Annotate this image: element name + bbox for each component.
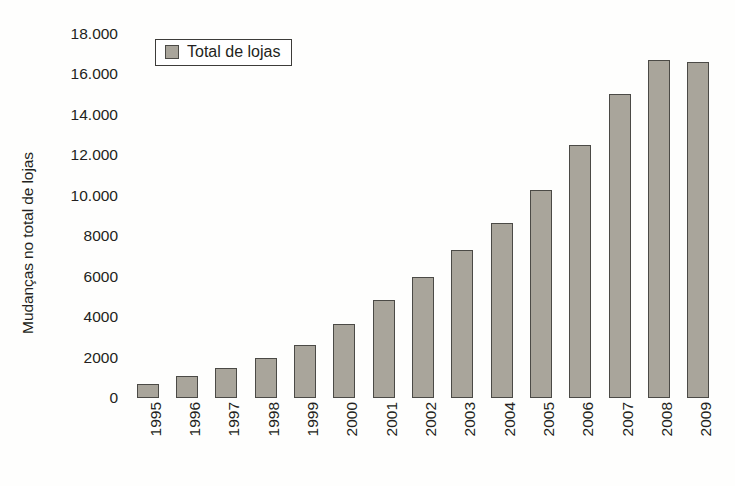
y-tick-label: 18.000 (56, 26, 118, 42)
bar-chart: Mudanças no total de lojas 0200040006000… (0, 0, 735, 486)
bar-slot (285, 34, 324, 398)
y-tick-label: 10.000 (56, 188, 118, 204)
bar (609, 94, 631, 398)
bar (176, 376, 198, 398)
x-tick-slot: 2002 (403, 398, 442, 480)
y-axis-tick-labels: 0200040006000800010.00012.00014.00016.00… (56, 34, 118, 398)
chart-legend: Total de lojas (155, 39, 292, 66)
bar-slot (207, 34, 246, 398)
legend-label: Total de lojas (187, 44, 280, 60)
x-tick-label: 1995 (148, 402, 164, 436)
bar-slot (561, 34, 600, 398)
bar (137, 384, 159, 398)
y-tick-label: 4000 (56, 309, 118, 325)
x-tick-label: 2004 (502, 402, 518, 436)
bar-slot (246, 34, 285, 398)
x-tick-label: 2007 (620, 402, 636, 436)
x-tick-label: 1997 (226, 402, 242, 436)
bar-slot (443, 34, 482, 398)
bar (215, 368, 237, 398)
x-tick-slot: 2009 (679, 398, 718, 480)
x-tick-slot: 2007 (600, 398, 639, 480)
y-tick-label: 16.000 (56, 67, 118, 83)
y-tick-label: 0 (56, 390, 118, 406)
x-tick-slot: 2005 (521, 398, 560, 480)
y-axis-title: Mudanças no total de lojas (0, 0, 56, 486)
y-tick-label: 8000 (56, 228, 118, 244)
x-tick-slot: 1997 (207, 398, 246, 480)
bar-slot (167, 34, 206, 398)
y-tick-label: 2000 (56, 350, 118, 366)
x-tick-slot: 1999 (285, 398, 324, 480)
bar (648, 60, 670, 398)
bar-slot (364, 34, 403, 398)
bar (412, 277, 434, 398)
x-tick-slot: 1998 (246, 398, 285, 480)
bar (333, 324, 355, 398)
x-tick-label: 2003 (462, 402, 478, 436)
bar-slot (482, 34, 521, 398)
x-tick-label: 2008 (659, 402, 675, 436)
x-tick-label: 2001 (384, 402, 400, 436)
bar (687, 62, 709, 398)
plot-area (128, 34, 718, 398)
x-tick-slot: 1996 (167, 398, 206, 480)
x-tick-slot: 2001 (364, 398, 403, 480)
x-tick-label: 2009 (698, 402, 714, 436)
bar-slot (128, 34, 167, 398)
y-tick-label: 12.000 (56, 148, 118, 164)
bar (569, 145, 591, 398)
x-tick-label: 2005 (541, 402, 557, 436)
bar (451, 250, 473, 398)
bar (294, 345, 316, 398)
y-tick-label: 6000 (56, 269, 118, 285)
x-tick-slot: 1995 (128, 398, 167, 480)
bar (255, 358, 277, 398)
x-tick-label: 2006 (580, 402, 596, 436)
y-tick-label: 14.000 (56, 107, 118, 123)
bar-slot (639, 34, 678, 398)
bar-slot (679, 34, 718, 398)
x-tick-slot: 2004 (482, 398, 521, 480)
bar (491, 223, 513, 398)
x-axis-tick-labels: 1995199619971998199920002001200220032004… (128, 398, 718, 480)
x-tick-label: 1999 (305, 402, 321, 436)
legend-color-swatch (165, 45, 179, 59)
x-tick-slot: 2003 (443, 398, 482, 480)
x-tick-label: 2000 (344, 402, 360, 436)
x-tick-slot: 2006 (561, 398, 600, 480)
bar-slot (325, 34, 364, 398)
bar (373, 300, 395, 398)
x-tick-label: 1996 (187, 402, 203, 436)
x-tick-label: 1998 (266, 402, 282, 436)
bar-slot (521, 34, 560, 398)
bar-slot (403, 34, 442, 398)
x-tick-label: 2002 (423, 402, 439, 436)
x-tick-slot: 2000 (325, 398, 364, 480)
bar-slot (600, 34, 639, 398)
bar (530, 190, 552, 398)
x-tick-slot: 2008 (639, 398, 678, 480)
